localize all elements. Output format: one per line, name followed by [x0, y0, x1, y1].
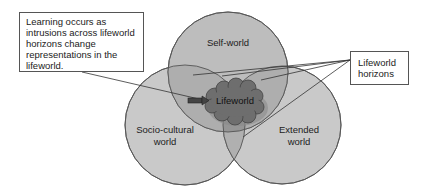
socio-cultural-label-line1: Socio-cultural	[136, 124, 194, 135]
lifeworld-horizons-text: Lifeworld horizons	[358, 57, 396, 79]
lifeworld-horizons-box: Lifeworld horizons	[350, 51, 409, 85]
socio-cultural-label-line2: world	[153, 136, 177, 147]
learning-note-box: Learning occurs as intrusions across lif…	[19, 12, 144, 72]
extended-world-label-line2: world	[287, 136, 311, 147]
lifeworld-diagram: Self-world Lifeworld Socio-cultural worl…	[0, 0, 426, 195]
lifeworld-label: Lifeworld	[216, 95, 254, 106]
learning-note-text: Learning occurs as intrusions across lif…	[26, 16, 135, 71]
extended-world-label-line1: Extended	[279, 124, 319, 135]
self-world-label: Self-world	[207, 37, 249, 48]
